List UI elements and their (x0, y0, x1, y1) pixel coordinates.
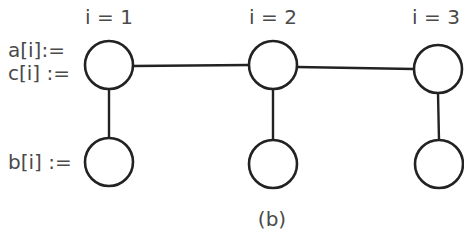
node-bottom-2 (249, 140, 297, 188)
node-top-3 (414, 45, 462, 93)
row-label-a: a[i]:= (8, 38, 65, 62)
edge-top-3-bottom-3 (438, 93, 439, 140)
node-top-1 (85, 41, 133, 89)
column-label-1: i = 1 (85, 5, 133, 29)
column-label-2: i = 2 (249, 5, 297, 29)
row-label-b: b[i] := (8, 150, 72, 174)
node-bottom-1 (85, 138, 133, 186)
node-bottom-3 (415, 140, 463, 188)
row-label-c: c[i] := (8, 61, 70, 85)
node-top-2 (249, 41, 297, 89)
diagram-canvas: i = 1 i = 2 i = 3 a[i]:= c[i] := b[i] :=… (0, 0, 464, 235)
edge-top-2-top-3 (297, 67, 414, 69)
column-label-3: i = 3 (412, 5, 460, 29)
edge-top-1-top-2 (133, 65, 249, 66)
figure-caption: (b) (258, 207, 286, 231)
